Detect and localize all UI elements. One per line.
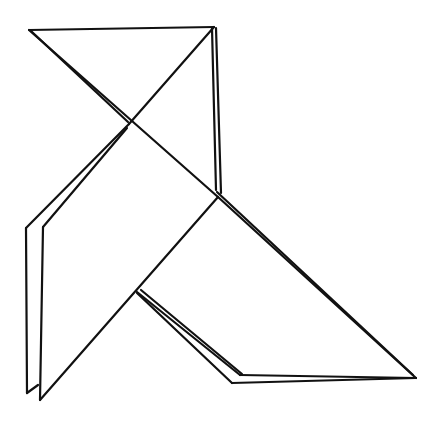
origami-bird-icon [0, 0, 444, 426]
origami-bird-drawing [0, 0, 444, 426]
